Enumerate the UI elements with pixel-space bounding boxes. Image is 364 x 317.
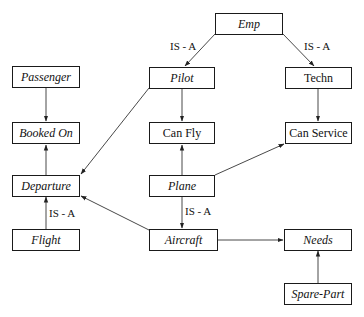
node-booked-on: Booked On xyxy=(12,122,80,144)
node-needs-label: Needs xyxy=(303,233,332,248)
node-can-fly: Can Fly xyxy=(149,122,215,144)
edge-aircraft-departure xyxy=(81,196,149,230)
node-needs: Needs xyxy=(284,229,352,251)
edge-label-emp-pilot: IS - A xyxy=(170,40,196,52)
node-flight-label: Flight xyxy=(31,233,60,248)
node-techn: Techn xyxy=(285,67,352,89)
node-emp-label: Emp xyxy=(238,17,260,32)
edge-label-flight-departure: IS - A xyxy=(49,207,75,219)
node-can-fly-label: Can Fly xyxy=(163,126,201,141)
semantic-network-diagram: Emp Pilot Techn Passenger Booked On Can … xyxy=(0,0,364,317)
edge-label-emp-techn: IS - A xyxy=(304,40,330,52)
edge-pilot-departure xyxy=(81,88,149,174)
node-plane-label: Plane xyxy=(168,179,196,194)
node-aircraft: Aircraft xyxy=(149,229,218,251)
edge-label-plane-aircraft: IS - A xyxy=(185,205,211,217)
node-emp: Emp xyxy=(215,13,283,35)
node-flight: Flight xyxy=(12,229,80,251)
node-can-service-label: Can Service xyxy=(289,126,347,141)
node-booked-on-label: Booked On xyxy=(19,126,73,141)
node-can-service: Can Service xyxy=(285,122,352,144)
node-pilot-label: Pilot xyxy=(170,71,193,86)
node-passenger-label: Passenger xyxy=(21,70,71,85)
edge-plane-canservice xyxy=(215,144,284,175)
node-techn-label: Techn xyxy=(304,71,333,86)
node-aircraft-label: Aircraft xyxy=(165,233,203,248)
node-pilot: Pilot xyxy=(149,67,215,89)
node-departure: Departure xyxy=(12,175,80,197)
node-spare-part: Spare-Part xyxy=(284,283,352,305)
node-plane: Plane xyxy=(149,175,215,197)
node-departure-label: Departure xyxy=(21,179,71,194)
node-passenger: Passenger xyxy=(12,66,80,88)
node-spare-part-label: Spare-Part xyxy=(292,287,345,302)
